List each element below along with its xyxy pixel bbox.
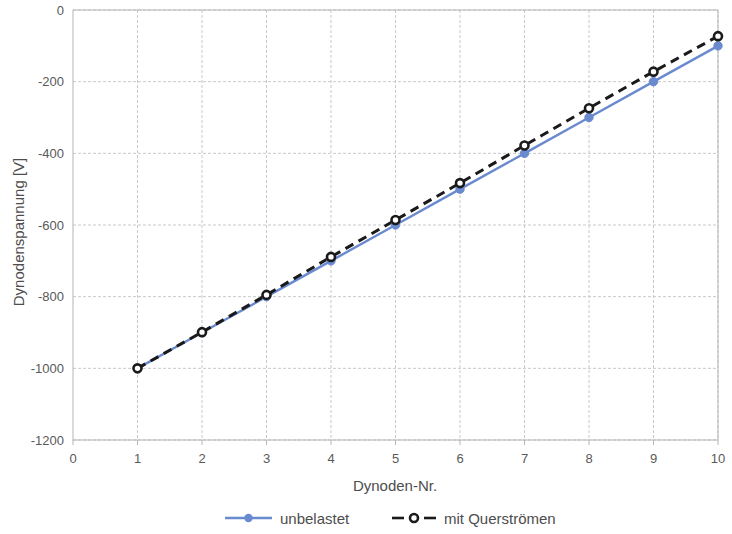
data-point-marker <box>649 77 657 85</box>
x-axis-title: Dynoden-Nr. <box>353 477 437 494</box>
y-tick-label: -1000 <box>31 361 64 376</box>
data-point-marker <box>134 364 142 372</box>
data-point-marker <box>714 32 722 40</box>
data-point-marker <box>585 104 593 112</box>
x-tick-label: 1 <box>134 451 141 466</box>
x-tick-label: 3 <box>263 451 270 466</box>
x-tick-label: 0 <box>69 451 76 466</box>
legend-label-mit-querstroemen: mit Querströmen <box>444 510 556 527</box>
data-point-marker <box>585 113 593 121</box>
data-point-marker <box>198 328 206 336</box>
legend-marker-mit-querstroemen <box>410 514 418 522</box>
data-point-marker <box>263 291 271 299</box>
chart-background <box>0 0 732 534</box>
y-axis-title: Dynodenspannung [V] <box>10 158 27 306</box>
x-tick-label: 6 <box>456 451 463 466</box>
y-tick-label: -600 <box>38 218 64 233</box>
x-tick-label: 10 <box>711 451 725 466</box>
data-point-marker <box>521 141 529 149</box>
data-point-marker <box>714 42 722 50</box>
data-point-marker <box>327 253 335 261</box>
chart-container: 0-200-400-600-800-1000-1200 012345678910… <box>0 0 732 534</box>
y-tick-label: 0 <box>57 3 64 18</box>
x-tick-label: 2 <box>198 451 205 466</box>
x-tick-label: 4 <box>327 451 334 466</box>
data-point-marker <box>650 68 658 76</box>
y-tick-label: -400 <box>38 146 64 161</box>
y-tick-label: -800 <box>38 289 64 304</box>
legend-label-unbelastet: unbelastet <box>280 510 350 527</box>
legend-marker-unbelastet <box>244 514 252 522</box>
data-point-marker <box>392 216 400 224</box>
data-point-marker <box>456 179 464 187</box>
x-tick-label: 9 <box>650 451 657 466</box>
dynode-voltage-line-chart: 0-200-400-600-800-1000-1200 012345678910… <box>0 0 732 534</box>
y-tick-label: -1200 <box>31 433 64 448</box>
x-tick-label: 8 <box>585 451 592 466</box>
x-tick-label: 5 <box>392 451 399 466</box>
y-tick-label: -200 <box>38 74 64 89</box>
x-tick-label: 7 <box>521 451 528 466</box>
